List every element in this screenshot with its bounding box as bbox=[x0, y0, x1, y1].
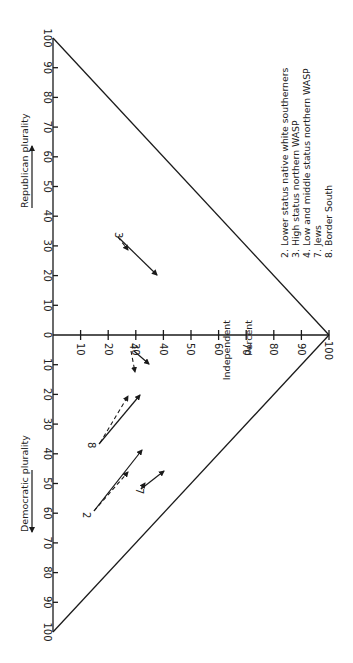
legend-item-7: 7. Jews bbox=[312, 225, 323, 258]
svg-text:60: 60 bbox=[42, 150, 53, 163]
svg-text:80: 80 bbox=[42, 91, 53, 104]
svg-text:High status northern WASP: High status northern WASP bbox=[290, 120, 301, 246]
vector-group-2: 2 bbox=[81, 450, 142, 518]
democratic-plurality-label: Democratic plurality bbox=[19, 435, 32, 532]
svg-text:70: 70 bbox=[42, 121, 53, 134]
svg-text:50: 50 bbox=[185, 343, 196, 356]
svg-text:30: 30 bbox=[42, 240, 53, 253]
svg-text:90: 90 bbox=[296, 343, 307, 356]
republican-plurality-label: Republican plurality bbox=[19, 113, 32, 208]
svg-text:20: 20 bbox=[103, 343, 114, 356]
svg-text:4.: 4. bbox=[301, 249, 312, 258]
diagram-canvas: 100 90 80 70 60 50 40 30 20 10 0 10 20 3… bbox=[0, 0, 353, 663]
svg-text:10: 10 bbox=[75, 343, 86, 356]
svg-text:7.: 7. bbox=[312, 249, 323, 258]
svg-text:Independent: Independent bbox=[221, 320, 232, 380]
svg-text:2: 2 bbox=[81, 512, 92, 518]
svg-text:50: 50 bbox=[42, 477, 53, 490]
svg-text:90: 90 bbox=[42, 61, 53, 74]
svg-text:80: 80 bbox=[42, 566, 53, 579]
legend-item-8: 8. Border South bbox=[323, 185, 334, 258]
svg-text:10: 10 bbox=[42, 299, 53, 312]
vector-group-7: 7 bbox=[134, 471, 164, 494]
svg-text:50: 50 bbox=[42, 180, 53, 193]
svg-text:40: 40 bbox=[158, 343, 169, 356]
svg-text:8: 8 bbox=[86, 442, 97, 448]
svg-text:0: 0 bbox=[42, 332, 53, 338]
svg-text:Low and middle status northern: Low and middle status northern WASP bbox=[301, 68, 312, 246]
svg-text:2.: 2. bbox=[279, 249, 290, 258]
svg-text:70: 70 bbox=[42, 537, 53, 550]
svg-text:60: 60 bbox=[42, 507, 53, 520]
svg-text:20: 20 bbox=[42, 269, 53, 282]
independent-axis-label: Percent Independent bbox=[221, 320, 254, 380]
vector-group-8: 8 bbox=[86, 395, 140, 448]
plurality-tick-labels: 100 90 80 70 60 50 40 30 20 10 0 10 20 3… bbox=[42, 28, 53, 641]
svg-text:Jews: Jews bbox=[312, 225, 323, 247]
svg-text:100: 100 bbox=[42, 622, 53, 641]
legend: 2. Lower status native white southerners… bbox=[279, 68, 334, 258]
svg-text:30: 30 bbox=[42, 418, 53, 431]
svg-text:40: 40 bbox=[42, 210, 53, 223]
svg-text:7: 7 bbox=[134, 488, 145, 494]
svg-text:100: 100 bbox=[323, 341, 334, 360]
vector-group-3: 3 bbox=[113, 232, 157, 275]
svg-text:Percent: Percent bbox=[243, 320, 254, 356]
svg-text:Lower status native white sout: Lower status native white southerners bbox=[279, 68, 290, 246]
legend-item-2: 2. Lower status native white southerners bbox=[279, 68, 290, 258]
svg-text:8.: 8. bbox=[323, 249, 334, 258]
svg-text:90: 90 bbox=[42, 596, 53, 609]
svg-text:Republican plurality: Republican plurality bbox=[19, 113, 30, 208]
svg-text:3.: 3. bbox=[290, 249, 301, 258]
vector-group-4: 4 bbox=[128, 343, 149, 372]
svg-text:Democratic plurality: Democratic plurality bbox=[19, 435, 30, 532]
svg-text:4: 4 bbox=[128, 343, 139, 349]
legend-item-3: 3. High status northern WASP bbox=[290, 120, 301, 258]
svg-text:10: 10 bbox=[42, 358, 53, 371]
democratic-boundary-line bbox=[53, 335, 329, 632]
svg-text:80: 80 bbox=[268, 343, 279, 356]
svg-text:20: 20 bbox=[42, 388, 53, 401]
svg-text:100: 100 bbox=[42, 28, 53, 47]
legend-item-4: 4. Low and middle status northern WASP bbox=[301, 68, 312, 258]
independent-tick-labels: 10 20 30 40 50 60 70 80 90 100 bbox=[75, 341, 334, 360]
svg-text:Border South: Border South bbox=[323, 185, 334, 246]
svg-text:40: 40 bbox=[42, 447, 53, 460]
